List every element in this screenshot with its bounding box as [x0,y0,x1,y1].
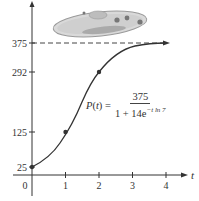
formula-lhs: P(t) = [86,100,111,111]
x-tick-4: 4 [164,180,169,191]
x-tick-0: 0 [23,180,28,191]
y-tick-375: 375 [12,38,27,49]
paramecium-illustration [52,7,148,41]
logistic-formula: P(t) = 375 1 + 14e−t ln 7 [86,91,166,120]
x-tick-3: 3 [130,180,135,191]
formula-denominator: 1 + 14e−t ln 7 [115,104,166,120]
x-tick-2: 2 [97,180,102,191]
data-point-t1 [63,130,67,134]
x-tick-1: 1 [63,180,68,191]
formula-numerator: 375 [130,91,150,104]
formula-exponent: −t ln 7 [146,106,165,114]
formula-denominator-base: 1 + 14e [115,108,147,119]
y-tick-25: 25 [17,162,27,173]
y-tick-292: 292 [12,67,27,78]
x-axis-label: t [191,169,195,181]
formula-fraction: 375 1 + 14e−t ln 7 [115,91,166,120]
x-axis-arrow [181,173,188,178]
data-point-t2 [97,70,101,74]
y-tick-125: 125 [12,127,27,138]
data-point-t0 [30,165,34,169]
y-axis-arrow [30,1,35,7]
